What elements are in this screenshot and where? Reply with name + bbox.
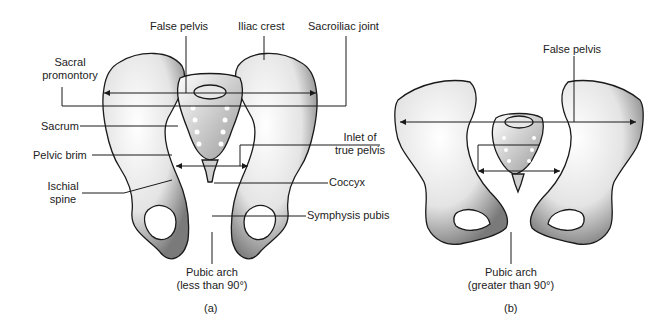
label-pubic-arch-b-line1: Pubic arch: [471, 266, 551, 279]
pelvis-comparison-figure: False pelvis Iliac crest Sacroiliac join…: [0, 0, 667, 334]
label-ischial-spine-line2: spine: [45, 193, 81, 206]
label-coccyx: Coccyx: [329, 176, 365, 189]
label-sacral-promontory-line2: promontory: [33, 69, 107, 82]
label-iliac-crest: Iliac crest: [238, 20, 284, 33]
label-false-pelvis-a: False pelvis: [150, 20, 208, 33]
label-sacroiliac-joint: Sacroiliac joint: [308, 20, 379, 33]
label-ischial-spine-line1: Ischial: [45, 180, 81, 193]
label-pelvic-brim: Pelvic brim: [33, 149, 87, 162]
panel-caption-a: (a): [204, 302, 217, 314]
panel-caption-b: (b): [504, 302, 517, 314]
male-pelvis-drawing: [103, 53, 317, 258]
label-pubic-arch-a-line1: Pubic arch: [172, 266, 252, 279]
label-inlet-line1: Inlet of: [330, 131, 390, 144]
label-false-pelvis-b: False pelvis: [543, 43, 601, 56]
label-sacrum: Sacrum: [41, 120, 79, 133]
label-sacral-promontory-line1: Sacral: [45, 56, 95, 69]
female-pelvis-drawing: [395, 81, 644, 245]
label-inlet-line2: true pelvis: [322, 144, 398, 157]
label-pubic-arch-b-line2: (greater than 90°): [458, 279, 564, 292]
label-symphysis-pubis: Symphysis pubis: [307, 209, 390, 222]
label-pubic-arch-a-line2: (less than 90°): [165, 279, 259, 292]
